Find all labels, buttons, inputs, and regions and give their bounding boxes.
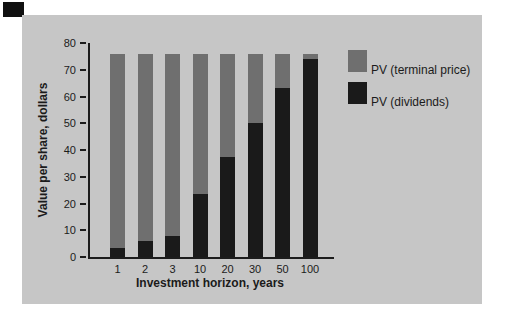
legend-label-terminal-price: PV (terminal price)	[371, 63, 470, 77]
bar-segment-dividends	[303, 59, 318, 257]
bar-group-horizon-30	[248, 54, 263, 257]
legend-swatch-dividends	[348, 82, 367, 104]
page-corner-mark	[3, 2, 24, 17]
y-axis-tick	[80, 69, 86, 71]
y-axis-tick	[80, 149, 86, 151]
bar-segment-terminal-price	[248, 54, 263, 124]
bar-group-horizon-10	[193, 54, 208, 257]
plot-area: 0102030405060708012310203050100	[88, 43, 334, 259]
y-axis-tick-label: 50	[50, 118, 76, 129]
y-axis-title: Value per share, dollars	[36, 50, 50, 250]
bar-group-horizon-1	[110, 54, 125, 257]
bar-segment-dividends	[193, 194, 208, 257]
bar-segment-terminal-price	[193, 54, 208, 194]
bar-group-horizon-2	[138, 54, 153, 257]
y-axis-tick-label: 30	[50, 172, 76, 183]
y-axis-tick	[80, 256, 86, 258]
bar-segment-terminal-price	[110, 54, 125, 248]
bar-segment-dividends	[248, 123, 263, 257]
y-axis-tick-label: 80	[50, 38, 76, 49]
bar-segment-terminal-price	[165, 54, 180, 236]
y-axis-tick	[80, 229, 86, 231]
x-axis-tick-label: 100	[293, 263, 327, 275]
y-axis-tick	[80, 176, 86, 178]
figure-canvas: 0102030405060708012310203050100 Value pe…	[0, 0, 512, 326]
y-axis-tick-label: 10	[50, 225, 76, 236]
bar-segment-terminal-price	[303, 54, 318, 59]
y-axis-tick	[80, 203, 86, 205]
bar-group-horizon-3	[165, 54, 180, 257]
legend-label-dividends: PV (dividends)	[371, 95, 449, 109]
y-axis-tick-label: 20	[50, 199, 76, 210]
bar-group-horizon-100	[303, 54, 318, 257]
y-axis-tick	[80, 96, 86, 98]
bar-segment-dividends	[220, 157, 235, 257]
y-axis-tick-label: 70	[50, 65, 76, 76]
bar-segment-dividends	[110, 248, 125, 257]
bar-segment-terminal-price	[220, 54, 235, 157]
bar-segment-dividends	[165, 236, 180, 257]
y-axis-tick-label: 60	[50, 92, 76, 103]
bar-group-horizon-50	[275, 54, 290, 257]
legend-swatch-terminal-price	[348, 50, 367, 72]
y-axis-tick-label: 40	[50, 145, 76, 156]
y-axis-tick	[80, 122, 86, 124]
bar-segment-terminal-price	[275, 54, 290, 89]
bar-segment-dividends	[275, 88, 290, 257]
x-axis-title: Investment horizon, years	[88, 276, 332, 290]
y-axis-tick-label: 0	[50, 252, 76, 263]
bar-segment-dividends	[138, 241, 153, 257]
y-axis-tick	[80, 42, 86, 44]
bar-group-horizon-20	[220, 54, 235, 257]
bar-segment-terminal-price	[138, 54, 153, 241]
